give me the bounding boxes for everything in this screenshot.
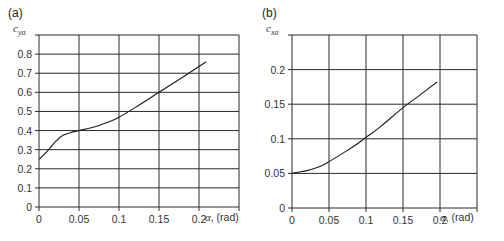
y-axis-label: cxa <box>266 22 278 37</box>
x-tick-label: 0.1 <box>359 214 374 226</box>
x-tick-label: 0 <box>36 213 42 225</box>
y-tick-label: 0 <box>26 201 32 213</box>
y-tick-label: 0.2 <box>270 64 285 76</box>
x-axis-label-unit: , (rad) <box>211 211 239 223</box>
y-tick-label: 0.2 <box>17 163 32 175</box>
y-tick-label: 0.1 <box>270 133 285 145</box>
y-axis-label: cya <box>13 22 25 37</box>
x-tick-label: 0.05 <box>319 214 340 226</box>
x-tick-label: 0.15 <box>393 214 414 226</box>
y-tick-label: 0.4 <box>17 125 32 137</box>
y-tick-label: 0.1 <box>17 182 32 194</box>
panel-label: (b) <box>262 6 277 20</box>
series-line-c-ya <box>39 62 206 159</box>
chart-panel-a: (a)cya00.10.20.30.40.50.60.70.800.050.10… <box>8 6 239 225</box>
x-axis-label: α, (rad) <box>440 211 474 223</box>
chart-panel-b: (b)cxa00.050.10.150.200.050.10.150.2α, (… <box>262 6 477 226</box>
x-tick-label: 0.1 <box>112 213 127 225</box>
y-tick-label: 0.05 <box>265 167 286 179</box>
y-axis-label-subscript: ya <box>17 28 26 37</box>
y-axis-label-subscript: xa <box>270 28 279 37</box>
y-tick-label: 0.3 <box>17 144 32 156</box>
panel-label: (a) <box>8 6 23 20</box>
x-axis-label: α, (rad) <box>205 211 239 223</box>
series-line-c-xa <box>292 82 437 173</box>
y-tick-label: 0.15 <box>265 98 286 110</box>
x-tick-label: 0 <box>289 214 295 226</box>
y-tick-label: 0 <box>279 202 285 214</box>
y-tick-label: 0.5 <box>17 105 32 117</box>
y-tick-label: 0.6 <box>17 86 32 98</box>
y-tick-label: 0.7 <box>17 67 32 79</box>
x-tick-label: 0.05 <box>69 213 90 225</box>
figure: (a)cya00.10.20.30.40.50.60.70.800.050.10… <box>0 0 504 241</box>
x-tick-label: 0.15 <box>149 213 170 225</box>
y-tick-label: 0.8 <box>17 48 32 60</box>
x-axis-label-unit: , (rad) <box>446 211 474 223</box>
